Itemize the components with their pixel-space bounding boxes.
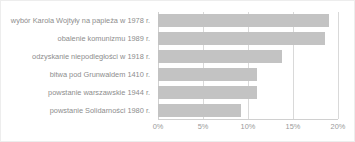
category-label: powstanie warszawskie 1944 r. — [1, 86, 154, 99]
bar — [158, 104, 241, 117]
category-label: odzyskanie niepodległości w 1918 r. — [1, 50, 154, 63]
bar-row — [158, 50, 338, 63]
x-tick-label: 0% — [153, 122, 164, 132]
bar-series — [158, 12, 338, 119]
bar-row — [158, 32, 338, 45]
x-axis-line — [158, 119, 338, 120]
bar-row — [158, 14, 338, 27]
chart-figure: wybór Karola Wojtyły na papieża w 1978 r… — [0, 0, 355, 142]
category-label: obalenie komunizmu 1989 r. — [1, 32, 154, 45]
bar-row — [158, 104, 338, 117]
x-tick-label: 10% — [241, 122, 256, 132]
bar — [158, 86, 257, 99]
x-tick-label: 15% — [286, 122, 301, 132]
bar — [158, 50, 282, 63]
gridline — [338, 12, 339, 119]
x-tick-label: 5% — [198, 122, 209, 132]
bar-row — [158, 68, 338, 81]
x-tick-label: 20% — [331, 122, 346, 132]
bar — [158, 32, 325, 45]
bar-row — [158, 86, 338, 99]
category-axis-labels: wybór Karola Wojtyły na papieża w 1978 r… — [1, 12, 154, 119]
category-label: wybór Karola Wojtyły na papieża w 1978 r… — [1, 14, 154, 27]
category-label: powstanie Solidarności 1980 r. — [1, 104, 154, 117]
bar — [158, 14, 329, 27]
category-label: bitwa pod Grunwaldem 1410 r. — [1, 68, 154, 81]
plot-area — [158, 12, 338, 119]
bar — [158, 68, 257, 81]
bar-chart: wybór Karola Wojtyły na papieża w 1978 r… — [1, 1, 355, 142]
